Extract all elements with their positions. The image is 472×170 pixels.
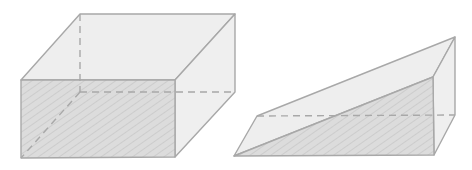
solids-diagram	[0, 0, 472, 170]
wedge-hidden-edges	[257, 115, 455, 116]
triangular-prism	[234, 37, 455, 156]
rectangular-prism	[21, 14, 235, 158]
